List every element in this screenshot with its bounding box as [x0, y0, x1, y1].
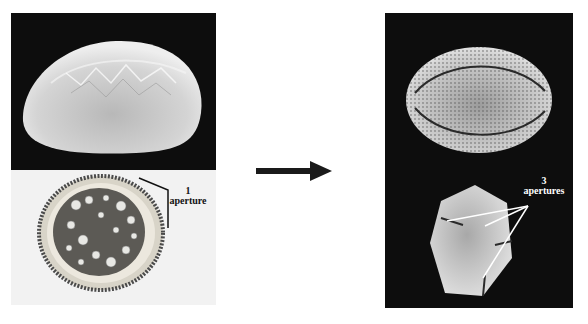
aperture-word: aperture: [163, 196, 213, 206]
evolution-arrow-icon: [254, 160, 334, 182]
one-aperture-label: 1 aperture: [163, 186, 213, 206]
monosulcate-sem-panel: [11, 13, 216, 170]
monosulcate-grain-image: [11, 13, 216, 170]
apertures-word: apertures: [515, 186, 573, 196]
tricolpate-sem-panel: 3 apertures: [385, 13, 573, 308]
monosulcate-section-panel: 1 aperture: [11, 170, 216, 305]
three-apertures-label: 3 apertures: [515, 176, 573, 196]
apertures-pointer-lines: [385, 13, 573, 308]
